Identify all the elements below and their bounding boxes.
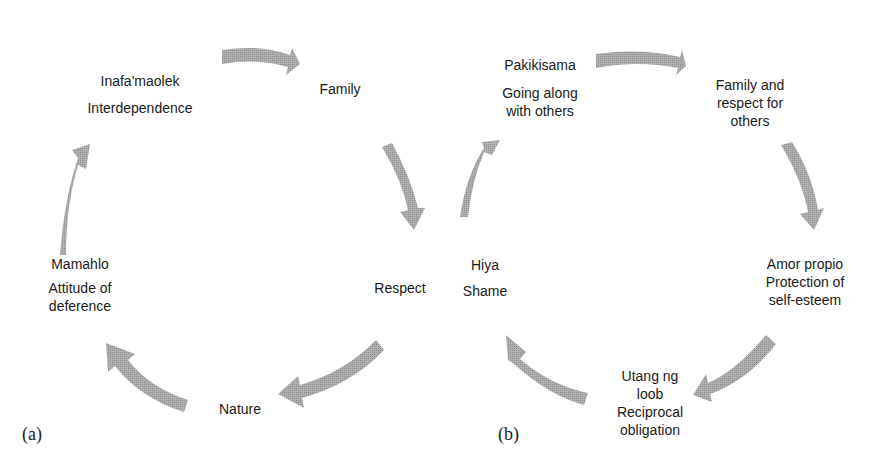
node-label-line: Utang ng	[600, 367, 700, 385]
node-mamahlo: Mamahlo Attitude of deference	[30, 255, 130, 315]
node-label-line: Family	[305, 80, 375, 98]
diagram-a-tag: (a)	[22, 424, 42, 445]
arrow-icon-a-top	[222, 48, 300, 75]
arrow-icon-a-right	[382, 143, 425, 230]
node-label-line: respect for	[690, 94, 810, 112]
node-label-line: Protection of	[740, 273, 870, 291]
node-label-line: deference	[30, 297, 130, 315]
arrow-icon-b-right	[781, 142, 824, 230]
node-hiya: Hiya Shame	[455, 256, 515, 300]
node-utang-ng-loob: Utang ng loob Reciprocal obligation	[600, 367, 700, 439]
diagram-b-tag: (b)	[498, 424, 519, 445]
node-label-line: Nature	[205, 400, 275, 418]
node-label-line: Respect	[365, 279, 435, 297]
node-respect: Respect	[365, 279, 435, 297]
node-label-line: Going along	[480, 84, 600, 102]
node-label-line: Mamahlo	[30, 255, 130, 273]
node-pakikisama: Pakikisama Going along with others	[480, 56, 600, 120]
node-label-line: Inafa'maolek	[65, 72, 215, 90]
node-label-line: Attitude of	[30, 279, 130, 297]
node-label-line: with others	[480, 102, 600, 120]
node-nature: Nature	[205, 400, 275, 418]
node-family-respect: Family and respect for others	[690, 76, 810, 130]
cycle-diagrams: Inafa'maolek Interdependence Family Resp…	[0, 0, 875, 461]
arrow-icon-a-left	[60, 144, 90, 255]
node-inafamaolek: Inafa'maolek Interdependence	[65, 72, 215, 117]
node-label-line: Reciprocal	[600, 403, 700, 421]
arrow-icon-a-bottomright	[278, 340, 384, 408]
arrow-icon-b-left	[460, 140, 500, 217]
node-label-line: others	[690, 112, 810, 130]
node-label-line: Hiya	[455, 256, 515, 274]
node-label-line: Family and	[690, 76, 810, 94]
node-label-line: self-esteem	[740, 291, 870, 309]
arrow-icon-b-bottomleft	[506, 335, 588, 405]
cycle-arrows	[0, 0, 875, 461]
arrow-icon-b-top	[596, 50, 686, 75]
arrow-icon-b-bottomright	[693, 335, 776, 402]
node-family: Family	[305, 80, 375, 98]
node-label-line: Pakikisama	[480, 56, 600, 74]
node-amor-propio: Amor propio Protection of self-esteem	[740, 255, 870, 309]
node-label-line: Amor propio	[740, 255, 870, 273]
node-label-line: Interdependence	[65, 99, 215, 117]
node-label-line: loob	[600, 385, 700, 403]
arrow-icon-a-bottomleft	[106, 343, 188, 412]
node-label-line: obligation	[600, 421, 700, 439]
node-label-line: Shame	[455, 282, 515, 300]
